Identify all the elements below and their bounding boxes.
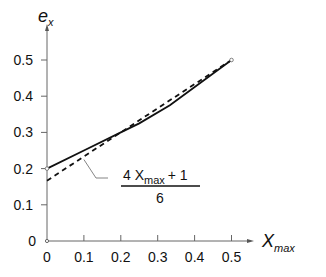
x-tick-label: 0.2 (111, 249, 131, 265)
formula-denominator: 6 (156, 190, 164, 206)
annotation-leader-line (84, 160, 108, 178)
y-tick-label: 0.4 (14, 88, 34, 104)
formula-numerator: 4 Xmax+ 1 (123, 167, 188, 186)
exact-curve (47, 60, 232, 169)
y-tick-label: 0.5 (14, 52, 34, 68)
x-tick-label: 0 (43, 249, 51, 265)
y-tick-label: 0.2 (14, 161, 34, 177)
annotation-formula: 4 Xmax+ 1 6 (121, 167, 200, 206)
x-tick-label: 0.5 (222, 249, 242, 265)
x-tick-label: 0.4 (185, 249, 205, 265)
chart: 00.10.20.30.40.500.10.20.30.40.5 ex Xmax… (0, 0, 326, 277)
approximation-line (47, 60, 232, 181)
y-tick-label: 0 (28, 233, 36, 249)
ticks (41, 60, 232, 241)
tick-labels: 00.10.20.30.40.500.10.20.30.40.5 (14, 52, 242, 265)
x-tick-label: 0.3 (148, 249, 168, 265)
y-tick-label: 0.3 (14, 124, 34, 140)
y-axis-label: ex (38, 6, 54, 28)
axes (47, 28, 250, 241)
x-axis-arrow-icon (247, 239, 254, 243)
x-tick-label: 0.1 (74, 249, 94, 265)
end-point-marker (230, 58, 234, 62)
origin-marker (45, 239, 48, 242)
y-tick-label: 0.1 (14, 197, 34, 213)
x-axis-label: Xmax (261, 231, 295, 254)
start-point-marker (45, 167, 49, 171)
